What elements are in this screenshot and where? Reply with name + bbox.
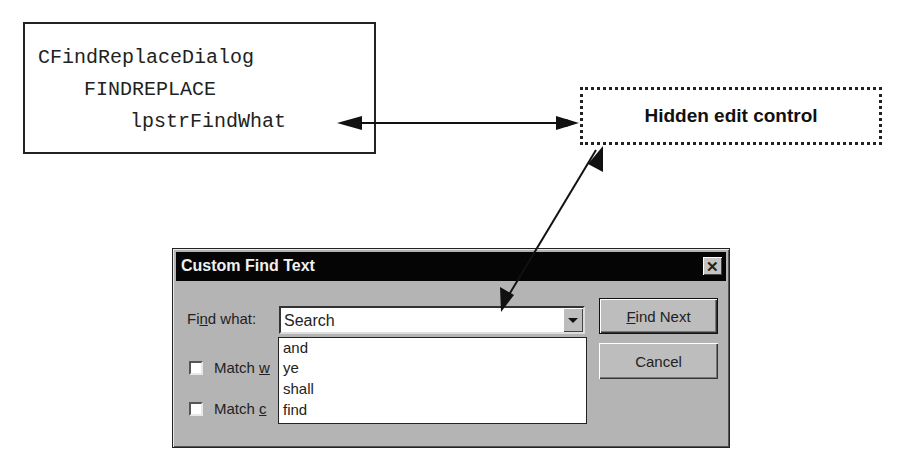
struct-name: FINDREPLACE: [84, 78, 216, 101]
checkbox-label-accel: w: [259, 359, 270, 376]
find-next-label: ind Next: [636, 308, 691, 325]
find-label-accel: n: [200, 310, 208, 327]
find-what-combo[interactable]: Search: [279, 306, 585, 334]
list-item[interactable]: find: [283, 401, 307, 419]
match-whole-word-label[interactable]: Match w: [214, 359, 270, 376]
close-icon: ✕: [706, 259, 719, 274]
find-next-button[interactable]: Find Next: [599, 298, 718, 334]
list-item[interactable]: shall: [283, 380, 314, 398]
dialog-title-bar[interactable]: Custom Find Text ✕: [176, 252, 726, 281]
code-structure-box: CFindReplaceDialog FINDREPLACE lpstrFind…: [23, 22, 376, 154]
match-case-label[interactable]: Match c: [214, 400, 267, 417]
dropdown-button[interactable]: [563, 308, 583, 332]
list-item[interactable]: ye: [283, 359, 299, 377]
arrow-head-right-icon: [556, 116, 579, 130]
checkbox-label-part: Match: [214, 359, 259, 376]
close-button[interactable]: ✕: [703, 257, 722, 275]
find-label-part: d what:: [208, 310, 256, 327]
find-next-accel: F: [626, 308, 635, 325]
find-what-label: Find what:: [187, 310, 256, 327]
class-name: CFindReplaceDialog: [38, 46, 254, 69]
list-item[interactable]: and: [283, 339, 308, 357]
arrow-head-up-icon: [588, 146, 603, 172]
match-case-checkbox[interactable]: [189, 402, 203, 416]
find-what-input[interactable]: Search: [284, 312, 335, 330]
cancel-button[interactable]: Cancel: [599, 343, 718, 379]
checkbox-label-part: Match: [214, 400, 259, 417]
checkbox-label-accel: c: [259, 400, 267, 417]
custom-find-dialog: Custom Find Text ✕ Find what: Search Mat…: [172, 248, 730, 448]
hidden-edit-control-box: Hidden edit control: [580, 87, 882, 145]
match-whole-word-checkbox[interactable]: [189, 361, 203, 375]
dropdown-list[interactable]: and ye shall find: [278, 337, 587, 424]
chevron-down-icon: [568, 318, 578, 323]
find-label-part: Fi: [187, 310, 200, 327]
dialog-title: Custom Find Text: [181, 257, 315, 275]
member-name: lpstrFindWhat: [130, 110, 286, 133]
hidden-edit-control-label: Hidden edit control: [644, 105, 817, 127]
